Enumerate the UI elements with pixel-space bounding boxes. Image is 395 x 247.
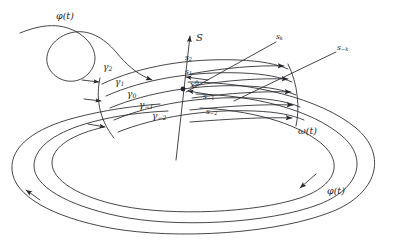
section-label-smk: s−k [337, 44, 348, 52]
leader-line-smk [234, 52, 336, 101]
gamma-label-m1: γ−1 [139, 101, 153, 110]
phi-bottom-label: φ(t) [327, 186, 345, 196]
base-point-label: x0 [190, 80, 199, 90]
inner-spiral-curve [52, 108, 334, 212]
base-point-dot [181, 87, 186, 92]
omega-label: ω(t) [298, 126, 317, 136]
flow-arrow-band-5 [190, 118, 292, 122]
phi-top-curve [20, 26, 152, 82]
gamma-label-m2: γ−2 [152, 112, 166, 121]
section-label-sm2: s−2 [206, 108, 217, 116]
outer-spiral-curve [12, 82, 375, 234]
direction-arrow-outer [300, 174, 316, 188]
section-label-sk: sk [276, 33, 283, 41]
section-label-s1: s1 [185, 68, 192, 76]
band-left-arc [98, 78, 114, 138]
mathematical-diagram: φ(t) ω(t) φ(t) S γ2 γ1 γ0 γ−1 γ−2 s2 s1 … [0, 0, 395, 247]
phi-top-label: φ(t) [56, 11, 74, 21]
direction-arrow-inner [26, 190, 40, 200]
gamma-label-0: γ0 [127, 90, 136, 99]
axis-S-label: S [196, 33, 203, 43]
flow-arrow-left-1 [82, 80, 99, 82]
gamma-label-1: γ1 [115, 78, 124, 87]
section-label-sm1: s−1 [203, 93, 214, 101]
flow-arrow-left-3 [88, 124, 105, 127]
gamma-label-2: γ2 [103, 63, 112, 72]
section-label-s2: s2 [185, 54, 192, 62]
